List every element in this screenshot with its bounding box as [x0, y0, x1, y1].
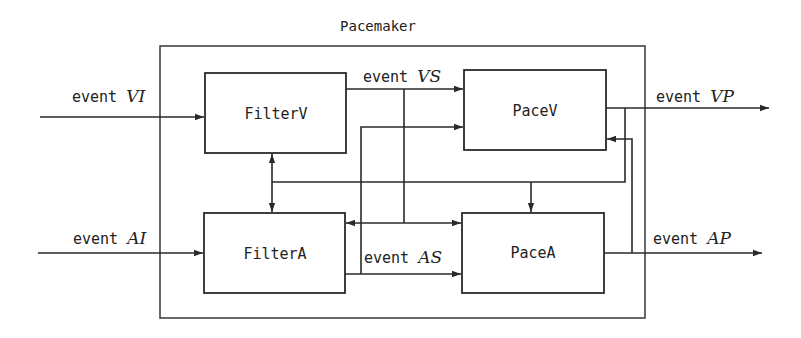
ap-prefix: event: [653, 230, 707, 248]
ap-name: AP: [707, 228, 731, 248]
pacev-label: PaceV: [512, 104, 557, 119]
pacea-label: PaceA: [510, 246, 555, 261]
ap-to-pacev-arrow: [607, 139, 632, 253]
as-prefix: event: [364, 249, 418, 267]
pacemaker-block-diagram: [0, 0, 801, 338]
vs-name: VS: [417, 66, 441, 86]
vi-signal-label: event VI: [72, 88, 145, 105]
vp-prefix: event: [656, 88, 710, 106]
ap-signal-label: event AP: [653, 230, 731, 247]
diagram-title: Pacemaker: [340, 18, 416, 34]
vi-prefix: event: [72, 88, 126, 106]
vs-prefix: event: [363, 68, 417, 86]
vs-signal-label: event VS: [363, 68, 441, 85]
vp-name: VP: [710, 86, 734, 106]
ai-name: AI: [127, 228, 146, 248]
ai-prefix: event: [73, 230, 127, 248]
filtera-label: FilterA: [243, 247, 306, 262]
vi-name: VI: [126, 86, 145, 106]
as-name: AS: [418, 247, 442, 267]
vp-signal-label: event VP: [656, 88, 734, 105]
filterv-label: FilterV: [244, 107, 307, 122]
as-signal-label: event AS: [364, 249, 442, 266]
ai-signal-label: event AI: [73, 230, 146, 247]
